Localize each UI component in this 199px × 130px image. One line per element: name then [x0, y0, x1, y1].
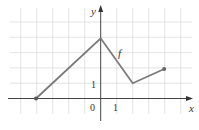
- x-axis-label: x: [188, 102, 194, 114]
- y-axis-arrow-icon: [98, 5, 103, 12]
- start-point: [34, 97, 38, 101]
- y-axis-label: y: [90, 5, 96, 17]
- x-axis-arrow-icon: [186, 96, 193, 101]
- curve-f: [36, 38, 164, 98]
- origin-label: 0: [90, 102, 95, 113]
- y-tick-label-1: 1: [91, 79, 96, 90]
- end-point: [162, 67, 166, 71]
- x-tick-label-1: 1: [113, 102, 118, 113]
- function-graph: y x f 0 1 1: [0, 0, 199, 130]
- curve-label-f: f: [118, 47, 123, 59]
